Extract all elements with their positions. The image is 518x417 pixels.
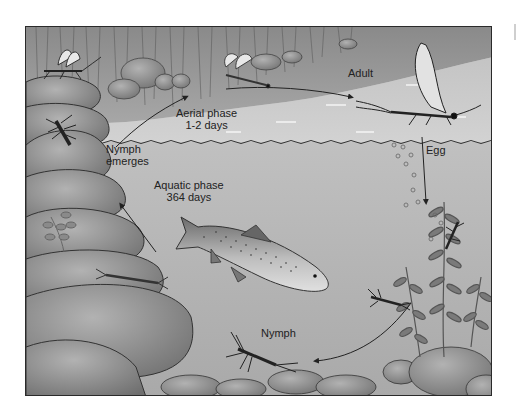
- label-nymph-emerges-line1: Nymph: [106, 143, 149, 155]
- label-adult-text: Adult: [348, 67, 373, 79]
- label-egg: Egg: [426, 144, 446, 156]
- illustration-artwork: [26, 27, 492, 396]
- label-nymph-emerges: Nymph emerges: [106, 143, 149, 167]
- label-nymph: Nymph: [261, 327, 296, 339]
- label-nymph-text: Nymph: [261, 327, 296, 339]
- label-aerial-phase-title: Aerial phase: [176, 107, 237, 119]
- label-aerial-phase: Aerial phase 1-2 days: [176, 107, 237, 131]
- label-aquatic-phase: Aquatic phase 364 days: [154, 179, 224, 203]
- label-aquatic-phase-duration: 364 days: [154, 191, 224, 203]
- label-nymph-emerges-line2: emerges: [106, 155, 149, 167]
- label-adult: Adult: [348, 67, 373, 79]
- mayfly-lifecycle-illustration: Adult Aerial phase 1-2 days Egg Nymph em…: [25, 26, 492, 396]
- label-aquatic-phase-title: Aquatic phase: [154, 179, 224, 191]
- label-egg-text: Egg: [426, 144, 446, 156]
- edge-artifact: [514, 24, 516, 40]
- label-aerial-phase-duration: 1-2 days: [176, 119, 237, 131]
